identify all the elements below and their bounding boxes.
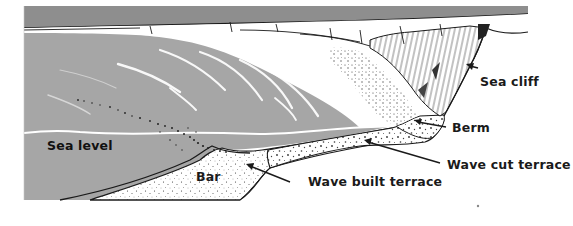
label-berm: Berm	[452, 122, 490, 135]
label-wave-built-terrace: Wave built terrace	[308, 176, 442, 189]
label-sea-level: Sea level	[47, 140, 113, 153]
label-wave-cut-terrace: Wave cut terrace	[447, 159, 571, 172]
speck	[477, 205, 479, 207]
label-sea-cliff: Sea cliff	[480, 76, 539, 89]
wave-cut-terrace-pointer	[368, 142, 440, 163]
diagram-illustration	[0, 0, 573, 226]
coastal-diagram: Sea cliff Berm Sea level Wave cut terrac…	[0, 0, 573, 226]
label-bar: Bar	[196, 171, 221, 184]
